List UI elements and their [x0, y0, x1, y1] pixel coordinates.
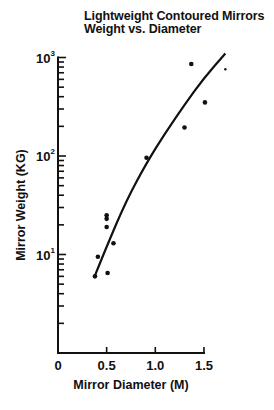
data-point [224, 68, 226, 70]
y-tick-label: 103 [36, 49, 55, 66]
x-tick-label: 0 [54, 358, 61, 373]
data-point [144, 155, 149, 160]
data-point [104, 225, 109, 230]
x-tick-label: 1.0 [146, 358, 164, 373]
data-point [182, 125, 187, 130]
data-point [105, 271, 110, 276]
y-tick-label: 101 [36, 246, 55, 263]
data-point [104, 217, 109, 222]
x-tick-label: 0.5 [98, 358, 116, 373]
data-point [96, 254, 101, 259]
plot-area: 10110210300.51.01.5 [0, 0, 274, 410]
y-tick-label: 102 [36, 147, 55, 164]
data-point [203, 100, 208, 105]
data-point [111, 241, 116, 246]
data-point [189, 62, 194, 67]
x-tick-label: 1.5 [195, 358, 213, 373]
data-point [93, 274, 98, 279]
